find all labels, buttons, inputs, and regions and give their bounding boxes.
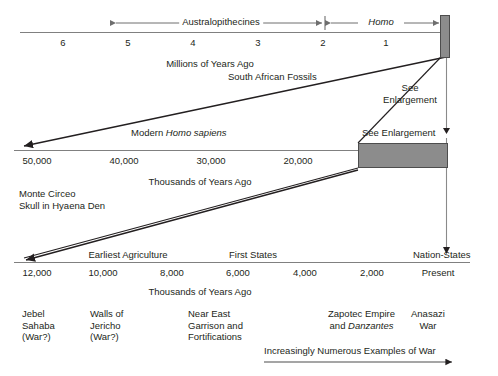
bottom-tick-4000: 4,000 <box>293 267 317 278</box>
footer-increasingly-numerous-war: Increasingly Numerous Examples of War <box>264 345 436 357</box>
zapotec-italic: Danzantes <box>348 320 393 331</box>
enlargement-box-top <box>440 15 450 58</box>
timeline-figure: Australopithecines Homo 6 5 4 3 2 1 Mill… <box>0 0 498 376</box>
enlargement-box-middle <box>358 143 448 168</box>
bottom-tick-2000: 2,000 <box>360 267 384 278</box>
top-tick-6: 6 <box>60 37 65 48</box>
bottom-tick-10000: 10,000 <box>88 267 117 278</box>
top-tick-5: 5 <box>125 37 130 48</box>
era-label-australopithecines: Australopithecines <box>179 16 263 27</box>
event-nation-states: Nation-States <box>413 249 471 261</box>
middle-tick-30000: 30,000 <box>196 155 225 166</box>
annotation-south-african-fossils: South African Fossils <box>228 71 317 83</box>
middle-tick-50000: 50,000 <box>22 155 51 166</box>
middle-axis-caption: Thousands of Years Ago <box>149 176 252 187</box>
top-tick-3: 3 <box>255 37 260 48</box>
event-near-east-fortifications: Near East Garrison and Fortifications <box>188 308 243 343</box>
annotation-monte-circeo: Monte Circeo Skull in Hyaena Den <box>19 188 105 211</box>
middle-tick-20000: 20,000 <box>283 155 312 166</box>
event-anasazi-war: Anasazi War <box>411 308 445 331</box>
event-earliest-agriculture: Earliest Agriculture <box>88 249 167 261</box>
era-label-homo: Homo <box>365 16 396 27</box>
bottom-tick-12000: 12,000 <box>22 267 51 278</box>
event-first-states: First States <box>229 249 277 261</box>
top-tick-4: 4 <box>190 37 195 48</box>
top-tick-1: 1 <box>383 37 388 48</box>
event-walls-of-jericho: Walls of Jericho (War?) <box>90 308 123 343</box>
bottom-tick-8000: 8,000 <box>160 267 184 278</box>
bottom-axis-caption: Thousands of Years Ago <box>149 286 252 297</box>
bottom-tick-present: Present <box>422 267 455 278</box>
annotation-modern-homo-sapiens: Modern Homo sapiens <box>131 127 227 139</box>
annotation-see-enlargement-middle: See Enlargement <box>362 127 435 139</box>
top-axis-caption: Millions of Years Ago <box>166 58 254 69</box>
middle-tick-40000: 40,000 <box>109 155 138 166</box>
event-jebel-sahaba: Jebel Sahaba (War?) <box>22 308 55 343</box>
bottom-tick-6000: 6,000 <box>226 267 250 278</box>
event-zapotec-empire: Zapotec Empire and Danzantes <box>328 308 395 331</box>
top-tick-2: 2 <box>320 37 325 48</box>
modern-homo-sapiens-italic: Homo sapiens <box>166 127 227 138</box>
modern-homo-sapiens-prefix: Modern <box>131 127 166 138</box>
annotation-see-enlargement-top: See Enlargement <box>383 82 437 105</box>
